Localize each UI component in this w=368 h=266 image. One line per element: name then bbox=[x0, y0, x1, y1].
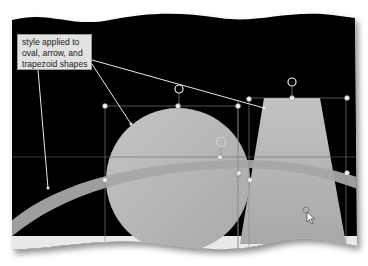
callout-box: style applied to oval, arrow, and trapez… bbox=[17, 34, 92, 70]
screenshot-stage: style applied to oval, arrow, and trapez… bbox=[0, 0, 368, 266]
callout-line-2: oval, arrow, and bbox=[22, 48, 87, 59]
callout-line-1: style applied to bbox=[22, 37, 87, 48]
callout-line-3: trapezoid shapes bbox=[22, 59, 87, 70]
